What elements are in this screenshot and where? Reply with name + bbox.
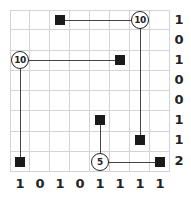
square-block[interactable]: [55, 15, 65, 25]
grid-cell[interactable]: [70, 152, 90, 172]
grid-cell[interactable]: [110, 111, 130, 131]
grid-cell[interactable]: [110, 91, 130, 111]
grid-cell[interactable]: [70, 30, 90, 50]
grid-cell[interactable]: [30, 10, 50, 30]
row-clue: 0: [174, 32, 184, 47]
grid-cell[interactable]: [110, 30, 130, 50]
row-clue: 1: [174, 132, 184, 147]
grid-cell[interactable]: [70, 111, 90, 131]
grid-cell[interactable]: [30, 152, 50, 172]
column-clue: 1: [90, 176, 110, 191]
column-clue: 0: [70, 176, 90, 191]
grid-cell[interactable]: [150, 132, 170, 152]
grid-cell[interactable]: [150, 30, 170, 50]
grid-cell[interactable]: [90, 91, 110, 111]
connector-line: [140, 20, 141, 140]
connector-line: [60, 20, 140, 21]
column-clue: 1: [10, 176, 30, 191]
grid-cell[interactable]: [70, 71, 90, 91]
grid-cell[interactable]: [110, 71, 130, 91]
row-clue: 0: [174, 72, 184, 87]
column-clue: 1: [150, 176, 170, 191]
grid-cell[interactable]: [30, 111, 50, 131]
row-clue: 1: [174, 112, 184, 127]
connector-line: [20, 60, 21, 162]
grid-cell[interactable]: [50, 71, 70, 91]
grid-cell[interactable]: [30, 30, 50, 50]
row-clue: 1: [174, 52, 184, 67]
number-circle[interactable]: 10: [11, 51, 29, 69]
grid-cell[interactable]: [50, 111, 70, 131]
grid-cell[interactable]: [150, 51, 170, 71]
column-clue: 1: [50, 176, 70, 191]
square-block[interactable]: [95, 115, 105, 125]
connector-line: [100, 162, 160, 163]
puzzle-grid: 10 10 5: [10, 10, 170, 172]
column-clue: 0: [30, 176, 50, 191]
square-block[interactable]: [15, 157, 25, 167]
grid-cell[interactable]: [50, 30, 70, 50]
grid-cell[interactable]: [150, 91, 170, 111]
square-block[interactable]: [135, 135, 145, 145]
row-clue: 1: [174, 12, 184, 27]
row-clue: 2: [174, 153, 184, 168]
row-clue: 0: [174, 92, 184, 107]
number-circle[interactable]: 10: [131, 11, 149, 29]
grid-cell[interactable]: [150, 10, 170, 30]
grid-cell[interactable]: [150, 71, 170, 91]
grid-cell[interactable]: [30, 91, 50, 111]
grid-cell[interactable]: [10, 30, 30, 50]
grid-cell[interactable]: [70, 91, 90, 111]
grid-cell[interactable]: [90, 30, 110, 50]
column-clue: 1: [130, 176, 150, 191]
grid-cell[interactable]: [70, 132, 90, 152]
square-block[interactable]: [115, 55, 125, 65]
number-circle[interactable]: 5: [91, 153, 109, 171]
grid-cell[interactable]: [10, 10, 30, 30]
grid-cell[interactable]: [90, 71, 110, 91]
grid-cell[interactable]: [150, 111, 170, 131]
grid-cell[interactable]: [50, 132, 70, 152]
grid-cell[interactable]: [110, 132, 130, 152]
grid-cell[interactable]: [30, 71, 50, 91]
square-block[interactable]: [155, 157, 165, 167]
grid-cell[interactable]: [50, 152, 70, 172]
grid-cell[interactable]: [30, 132, 50, 152]
grid-cell[interactable]: [50, 91, 70, 111]
column-clue: 1: [110, 176, 130, 191]
connector-line: [20, 60, 120, 61]
